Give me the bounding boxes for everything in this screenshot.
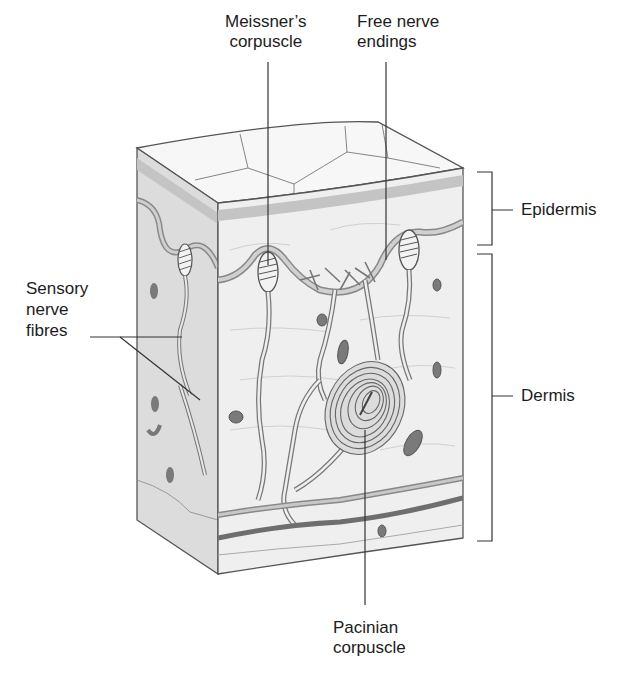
block-front-face [218, 168, 463, 574]
epidermis-bracket [477, 172, 513, 245]
label-dermis: Dermis [521, 386, 575, 406]
label-epidermis: Epidermis [521, 200, 597, 220]
label-free-nerve-endings: Free nerve endings [357, 12, 439, 52]
skin-diagram: Meissner’s corpuscle Free nerve endings … [0, 0, 640, 681]
label-sensory-nerve-fibres: Sensory nerve fibres [26, 278, 88, 341]
dermis-bracket [477, 254, 513, 541]
skin-block-illustration [0, 0, 640, 681]
label-meissners-corpuscle: Meissner’s corpuscle [225, 12, 307, 52]
label-pacinian-corpuscle: Pacinian corpuscle [333, 618, 406, 658]
